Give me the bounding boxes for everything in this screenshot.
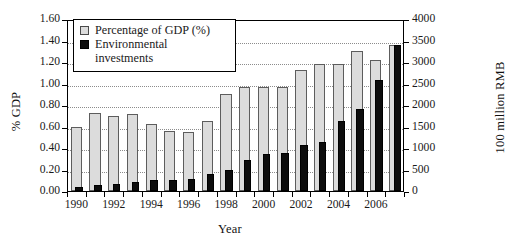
x-axis-tick [273,192,274,197]
bar-environmental-investments [207,174,214,191]
y-axis-right-tick-label: 3000 [412,55,458,68]
x-axis-tick-label: 1994 [130,198,172,211]
x-axis-tick-label: 2002 [280,198,322,211]
y-axis-right-tick [404,20,409,21]
bar-environmental-investments [394,45,401,191]
y-axis-right-tick-label: 2000 [412,98,458,111]
y-axis-right-tick-label: 500 [412,163,458,176]
x-axis-tick [142,192,143,197]
y-axis-left-tick-label: 0.20 [14,163,60,176]
x-axis-tick [198,192,199,197]
bar-environmental-investments [188,179,195,191]
bar-environmental-investments [113,184,120,191]
legend-label-environmental: Environmental [95,38,167,51]
y-axis-right-tick [404,85,409,86]
chart-legend: Percentage of GDP (%) Environmental inve… [73,19,236,72]
bar-environmental-investments [338,121,345,191]
x-axis-tick [254,192,255,197]
x-axis-tick [67,192,68,197]
y-axis-right-tick [404,128,409,129]
chart-figure: % GDP 100 million RMB Year 0.000.200.400… [0,0,517,246]
bar-percentage-of-gdp [127,114,138,191]
x-axis-tick [86,192,87,197]
y-axis-right-tick [404,63,409,64]
y-axis-right-tick [404,171,409,172]
x-axis-tick [329,192,330,197]
bar-environmental-investments [225,170,232,192]
bar-environmental-investments [132,182,139,191]
bar-environmental-investments [75,187,82,191]
x-axis-tick [161,192,162,197]
y-axis-left-tick-label: 1.00 [14,77,60,90]
x-axis-tick [123,192,124,197]
y-axis-left-tick-label: 0.40 [14,141,60,154]
y-axis-right-tick [404,42,409,43]
y-axis-right-tick-label: 4000 [412,12,458,25]
bar-environmental-investments [300,145,307,191]
x-axis-tick-label: 1992 [93,198,135,211]
bar-percentage-of-gdp [108,116,119,191]
x-axis-tick [292,192,293,197]
legend-item-environmental: Environmental [80,38,230,51]
bar-environmental-investments [244,160,251,191]
y-axis-right-tick-label: 1500 [412,120,458,133]
x-axis-tick [367,192,368,197]
legend-item-gdp: Percentage of GDP (%) [80,24,230,37]
x-axis-tick [104,192,105,197]
bar-percentage-of-gdp [71,127,82,192]
y-axis-right-tick-label: 0 [412,184,458,197]
y-axis-right-tick [404,149,409,150]
x-axis-tick [385,192,386,197]
x-axis-tick [179,192,180,197]
y-axis-left-tick-label: 0.60 [14,120,60,133]
bar-environmental-investments [375,80,382,191]
y-axis-left-tick-label: 0.00 [14,184,60,197]
bar-environmental-investments [281,153,288,191]
x-axis-tick [236,192,237,197]
bar-percentage-of-gdp [89,113,100,191]
legend-swatch-environmental-icon [80,40,89,49]
x-axis-tick-label: 2006 [355,198,397,211]
y-axis-right-tick-label: 1000 [412,141,458,154]
y-axis-right-title: 100 million RMB [493,48,508,168]
x-axis-tick-label: 1990 [55,198,97,211]
bar-environmental-investments [150,180,157,191]
bar-environmental-investments [356,109,363,191]
x-axis-tick-label: 1996 [168,198,210,211]
x-axis-tick-label: 2004 [317,198,359,211]
legend-label-environmental-line2: investments [95,52,230,65]
x-axis-tick [404,192,405,197]
x-axis-tick-label: 1998 [205,198,247,211]
y-axis-left-tick-label: 1.20 [14,55,60,68]
bar-environmental-investments [319,142,326,191]
y-axis-left-tick-label: 0.80 [14,98,60,111]
x-axis-tick [217,192,218,197]
y-axis-right-tick-label: 2500 [412,77,458,90]
bar-environmental-investments [263,154,270,191]
x-axis-tick-label: 2000 [243,198,285,211]
y-axis-left-title: % GDP [9,82,24,142]
bar-environmental-investments [169,180,176,191]
x-axis-tick [310,192,311,197]
x-axis-tick [348,192,349,197]
y-axis-left-tick-label: 1.60 [14,12,60,25]
legend-label-gdp: Percentage of GDP (%) [95,24,210,37]
y-axis-left-tick-label: 1.40 [14,34,60,47]
bar-environmental-investments [94,185,101,191]
y-axis-right-tick [404,106,409,107]
x-axis-title: Year [0,222,460,237]
y-axis-right-tick-label: 3500 [412,34,458,47]
legend-swatch-gdp-icon [80,26,89,35]
